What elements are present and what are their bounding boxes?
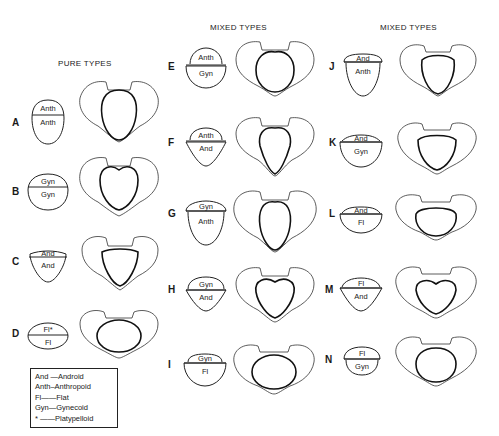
inlet-top-label: Fl — [358, 279, 365, 288]
pelvis-drawing-h — [232, 262, 318, 328]
inlet-bottom-label: And — [41, 261, 54, 270]
inlet-bottom-label: And — [199, 293, 212, 302]
header-pure-types: PURE TYPES — [58, 59, 112, 68]
pelvis-drawing-b — [76, 152, 162, 222]
inlet-top-label: Gyn — [199, 202, 213, 211]
legend-item-flat: Fl——Flat — [35, 393, 113, 403]
pelvis-drawing-e — [232, 36, 318, 102]
pelvis-drawing-g — [230, 186, 320, 258]
type-letter-k: K — [329, 137, 336, 148]
type-letter-f: F — [168, 137, 174, 148]
inlet-top-label: Fl* — [43, 325, 52, 334]
inlet-top-label: Anth — [40, 104, 55, 113]
inlet-top-label: Fl — [359, 349, 366, 358]
type-letter-c: C — [12, 256, 19, 267]
inlet-diagram-d: Fl* Fl — [26, 321, 70, 355]
inlet-diagram-a: Anth Anth — [28, 98, 68, 150]
header-mixed-types-1: MIXED TYPES — [210, 23, 267, 32]
type-letter-d: D — [12, 328, 19, 339]
inlet-bottom-label: Anth — [198, 217, 213, 226]
pelvis-drawing-d — [76, 306, 162, 364]
pelvis-drawing-a — [76, 76, 162, 148]
inlet-diagram-f: Anth And — [184, 126, 228, 172]
type-letter-a: A — [12, 117, 19, 128]
type-letter-h: H — [168, 284, 175, 295]
pelvis-drawing-n — [392, 332, 480, 392]
legend-item-gynecoid: Gyn—Gynecoid — [35, 403, 113, 413]
inlet-bottom-label: Gyn — [354, 147, 368, 156]
type-letter-b: B — [12, 186, 19, 197]
inlet-top-label: Gyn — [198, 354, 212, 363]
header-mixed-types-2: MIXED TYPES — [380, 23, 437, 32]
inlet-diagram-k: And Gyn — [338, 133, 384, 173]
pelvis-drawing-f — [232, 112, 318, 182]
inlet-top-label: Gyn — [199, 280, 213, 289]
inlet-diagram-c: And And — [26, 248, 70, 288]
inlet-diagram-l: And Fl — [338, 205, 384, 239]
legend-box: And —Android Anth–Anthropoid Fl——Flat Gy… — [30, 368, 118, 428]
inlet-bottom-label: Fl — [358, 218, 365, 227]
inlet-bottom-label: Gyn — [199, 69, 213, 78]
pelvis-drawing-m — [392, 262, 480, 324]
inlet-diagram-i: Gyn Fl — [182, 352, 228, 392]
inlet-bottom-label: And — [354, 292, 367, 301]
inlet-diagram-g: Gyn Anth — [184, 199, 228, 251]
inlet-diagram-m: Fl And — [338, 275, 384, 317]
inlet-top-label: And — [41, 249, 54, 258]
pelvis-drawing-i — [230, 340, 318, 400]
inlet-diagram-j: And Anth — [342, 52, 384, 102]
type-letter-i: I — [168, 359, 171, 370]
inlet-bottom-label: Fl — [45, 338, 52, 347]
pelvis-drawing-c — [78, 230, 162, 296]
inlet-top-label: And — [354, 134, 367, 143]
inlet-diagram-n: Fl Gyn — [342, 345, 382, 381]
inlet-bottom-label: Anth — [355, 67, 370, 76]
pelvis-drawing-j — [396, 40, 480, 102]
legend-item-anthropoid: Anth–Anthropoid — [35, 382, 113, 392]
type-letter-l: L — [329, 208, 335, 219]
inlet-top-label: And — [356, 54, 369, 63]
inlet-top-label: Anth — [198, 53, 213, 62]
inlet-bottom-label: Gyn — [355, 362, 369, 371]
inlet-top-label: And — [354, 206, 367, 215]
legend-item-platypelloid: * ——Platypelloid — [35, 414, 113, 424]
inlet-bottom-label: Fl — [202, 367, 209, 376]
type-letter-j: J — [329, 61, 335, 72]
type-letter-g: G — [168, 208, 176, 219]
legend-item-android: And —Android — [35, 372, 113, 382]
type-letter-e: E — [168, 61, 175, 72]
inlet-bottom-label: Gyn — [41, 190, 55, 199]
inlet-diagram-e: Anth Gyn — [184, 46, 228, 94]
inlet-diagram-b: Gyn Gyn — [26, 172, 70, 216]
type-letter-n: N — [325, 354, 332, 365]
inlet-top-label: Anth — [198, 131, 213, 140]
inlet-diagram-h: Gyn And — [184, 275, 228, 317]
pelvis-drawing-l — [392, 190, 480, 246]
inlet-bottom-label: And — [199, 144, 212, 153]
inlet-top-label: Gyn — [41, 177, 55, 186]
pelvis-drawing-k — [394, 118, 480, 180]
inlet-bottom-label: Anth — [40, 118, 55, 127]
type-letter-m: M — [325, 284, 333, 295]
